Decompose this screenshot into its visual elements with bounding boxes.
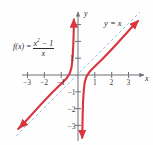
asymptote-label: y = x <box>104 18 122 28</box>
y-tick-label: 1 <box>70 54 74 63</box>
x-axis-label: x <box>145 74 149 83</box>
x-tick-label: −2 <box>40 78 48 87</box>
x-tick-label: 1 <box>93 78 97 87</box>
graph-canvas <box>0 0 153 145</box>
graph-figure: f(x) =x2 − 1x y = x x y −3 −2 −1 1 2 3 1… <box>0 0 153 145</box>
y-axis-label: y <box>84 9 88 18</box>
fraction-denominator: x <box>33 49 55 58</box>
x-tick-label: 2 <box>110 78 114 87</box>
x-tick-label: −1 <box>57 78 65 87</box>
fraction: x2 − 1x <box>33 36 55 58</box>
y-tick-label: −1 <box>68 88 76 97</box>
y-tick-label: −2 <box>68 105 76 114</box>
x-tick-label: 3 <box>127 78 131 87</box>
function-equation-label: f(x) =x2 − 1x <box>13 36 54 58</box>
fraction-numerator: x2 − 1 <box>33 36 55 49</box>
y-tick-label: −3 <box>68 122 76 131</box>
x-tick-label: −3 <box>23 78 31 87</box>
function-name: f(x) = <box>13 42 32 51</box>
